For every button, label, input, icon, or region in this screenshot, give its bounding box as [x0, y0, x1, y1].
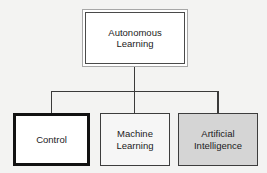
node-autonomous-learning[interactable]: Autonomous Learning: [82, 9, 188, 67]
node-control[interactable]: Control: [13, 113, 90, 166]
node-machine-learning-label: Machine Learning: [117, 128, 154, 150]
diagram-canvas: Autonomous Learning Control Machine Lear…: [0, 0, 267, 173]
node-root-inner-frame: Autonomous Learning: [85, 12, 185, 64]
node-artificial-intelligence-label: Artificial Intelligence: [194, 128, 242, 150]
node-artificial-intelligence[interactable]: Artificial Intelligence: [178, 113, 258, 166]
node-control-label: Control: [36, 134, 67, 145]
node-autonomous-learning-label: Autonomous Learning: [108, 27, 161, 49]
node-machine-learning[interactable]: Machine Learning: [100, 113, 170, 166]
